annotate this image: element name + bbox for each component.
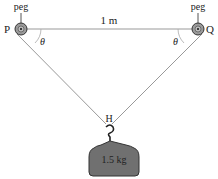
pulley-q-icon — [192, 23, 204, 35]
pulley-p-icon — [15, 23, 27, 35]
right-angle-label: θ — [173, 36, 178, 47]
right-string — [112, 34, 202, 124]
right-angle-arc — [178, 29, 184, 43]
right-peg-label: peg — [191, 1, 205, 12]
point-h-label: H — [105, 113, 112, 124]
pulley-diagram: 1 m peg peg θ θ P Q H 1.5 kg — [0, 0, 218, 179]
left-string — [17, 34, 106, 124]
point-q-label: Q — [206, 23, 214, 35]
length-label: 1 m — [101, 14, 118, 26]
mass-label: 1.5 kg — [102, 154, 127, 165]
left-peg-label: peg — [14, 1, 28, 12]
point-p-label: P — [4, 23, 10, 35]
left-angle-label: θ — [40, 36, 45, 47]
hook-icon — [106, 125, 114, 141]
